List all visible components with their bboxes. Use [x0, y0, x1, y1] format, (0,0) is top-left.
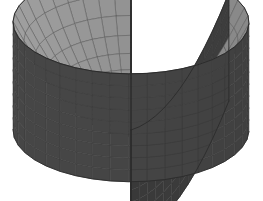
- surface-plot-canvas: [0, 0, 263, 201]
- surface-plot-figure: [0, 0, 263, 201]
